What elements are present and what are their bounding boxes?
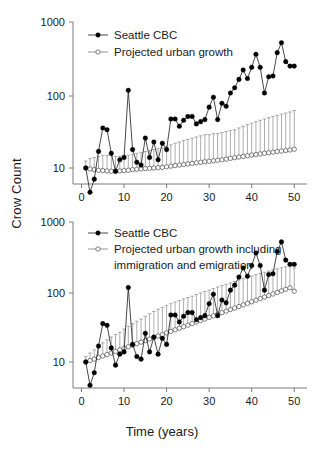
x-tick-label: 50 xyxy=(288,191,300,203)
y-tick-label: 1000 xyxy=(41,16,65,28)
panel-top: 10001001001020304050Seattle CBCProjected… xyxy=(0,0,324,210)
x-axis-label: Time (years) xyxy=(0,424,324,439)
x-tick-label: 0 xyxy=(78,191,84,203)
y-tick-label: 1000 xyxy=(41,216,65,228)
projected-markers xyxy=(84,286,297,365)
legend-label: Seattle CBC xyxy=(114,29,177,41)
panel-bottom: 10001001001020304050Seattle CBCProjected… xyxy=(0,210,324,424)
x-tick-label: 10 xyxy=(118,191,130,203)
y-tick-label: 10 xyxy=(53,162,65,174)
legend-label: immigration and emigration xyxy=(114,259,253,271)
x-tick-label: 30 xyxy=(203,191,215,203)
x-tick-label: 50 xyxy=(288,395,300,407)
y-tick-label: 10 xyxy=(53,356,65,368)
plot-top: 10001001001020304050Seattle CBCProjected… xyxy=(0,0,324,210)
cbc-markers xyxy=(83,40,296,194)
legend-label: Seattle CBC xyxy=(114,227,177,239)
y-tick-label: 100 xyxy=(47,287,65,299)
legend-label: Projected urban growth xyxy=(114,46,233,58)
x-tick-label: 0 xyxy=(78,395,84,407)
x-tick-label: 20 xyxy=(160,395,172,407)
x-tick-label: 20 xyxy=(160,191,172,203)
legend: Seattle CBCProjected urban growth xyxy=(88,29,233,58)
x-tick-label: 40 xyxy=(246,395,258,407)
x-tick-label: 10 xyxy=(118,395,130,407)
x-tick-label: 30 xyxy=(203,395,215,407)
figure-container: Crow Count Time (years) 1000100100102030… xyxy=(0,0,324,451)
x-tick-label: 40 xyxy=(246,191,258,203)
legend-label: Projected urban growth including xyxy=(114,243,282,255)
y-tick-label: 100 xyxy=(47,90,65,102)
plot-bottom: 10001001001020304050Seattle CBCProjected… xyxy=(0,210,324,424)
legend: Seattle CBCProjected urban growth includ… xyxy=(88,227,282,271)
